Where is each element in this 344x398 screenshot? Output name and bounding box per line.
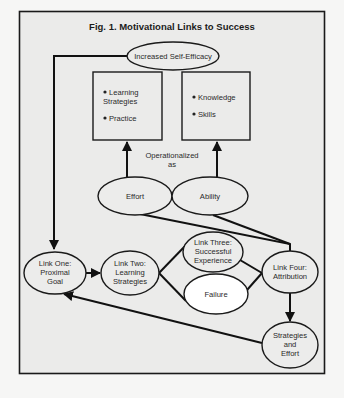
link-four-label-line1: Link Four: (273, 263, 307, 272)
effort-label: Effort (126, 192, 145, 201)
link-one-label-line3: Goal (47, 277, 63, 286)
operationalized-as-label: as (168, 160, 176, 169)
ability-box-item-knowledge: Knowledge (198, 93, 236, 102)
link-four-label-line2: Attribution (273, 272, 307, 281)
link-two-label-line3: Strategies (113, 277, 147, 286)
increased-self-efficacy-label: Increased Self-Efficacy (134, 52, 212, 61)
link-two-label-line2: Learning (115, 268, 145, 277)
strategies-effort-label-line2: and (284, 340, 297, 349)
link-one-label-line2: Proximal (40, 268, 70, 277)
operationalized-label: Operationalized (145, 151, 198, 160)
strategies-effort-label-line3: Effort (281, 349, 300, 358)
link-three-label-line3: Experience (194, 256, 232, 265)
effort-box-item-learning: Learning (109, 88, 139, 97)
bullet-icon (103, 116, 106, 119)
link-three-label-line2: Successful (195, 247, 232, 256)
motivational-links-diagram: Fig. 1. Motivational Links to Success In… (0, 0, 344, 398)
link-one-label-line1: Link One: (39, 259, 72, 268)
bullet-icon (192, 112, 195, 115)
effort-operationalized-box (93, 72, 162, 140)
link-two-label-line1: Link Two: (114, 259, 146, 268)
strategies-effort-label-line1: Strategies (273, 331, 307, 340)
figure-title: Fig. 1. Motivational Links to Success (89, 21, 255, 32)
bullet-icon (103, 90, 106, 93)
ability-label: Ability (200, 192, 220, 201)
bullet-icon (192, 95, 195, 98)
failure-label: Failure (204, 290, 227, 299)
effort-box-item-strategies: Strategies (103, 97, 137, 106)
effort-box-item-practice: Practice (109, 114, 136, 123)
link-three-label-line1: Link Three: (194, 238, 232, 247)
ability-operationalized-box (182, 72, 250, 140)
ability-box-item-skills: Skills (198, 110, 216, 119)
